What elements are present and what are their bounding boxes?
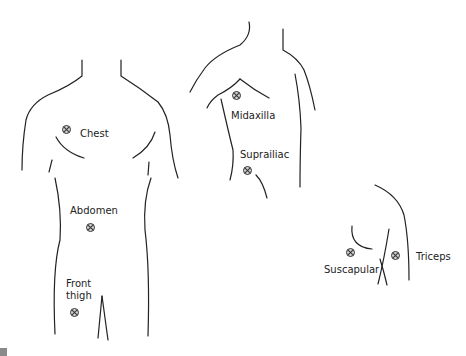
label-front-thigh-line2: thigh — [66, 290, 92, 302]
marker-front-thigh-icon — [70, 308, 79, 317]
corner-mark — [0, 348, 7, 356]
marker-abdomen-icon — [86, 223, 95, 232]
skinfold-sites-diagram: Chest Abdomen Front thigh Midaxilla Supr… — [0, 0, 466, 356]
marker-triceps-icon — [391, 251, 400, 260]
front-body-outline — [22, 60, 178, 340]
label-front-thigh-line1: Front — [66, 278, 91, 290]
label-abdomen: Abdomen — [70, 205, 118, 217]
label-suscapular: Suscapular — [324, 264, 379, 276]
label-suprailiac: Suprailiac — [240, 149, 289, 161]
marker-midaxilla-icon — [232, 91, 241, 100]
body-outlines — [0, 0, 466, 356]
marker-suprailiac-icon — [243, 166, 252, 175]
label-chest: Chest — [80, 128, 109, 140]
label-triceps: Triceps — [416, 251, 451, 263]
marker-chest-icon — [62, 125, 71, 134]
marker-suscapular-icon — [346, 248, 355, 257]
label-midaxilla: Midaxilla — [231, 110, 275, 122]
